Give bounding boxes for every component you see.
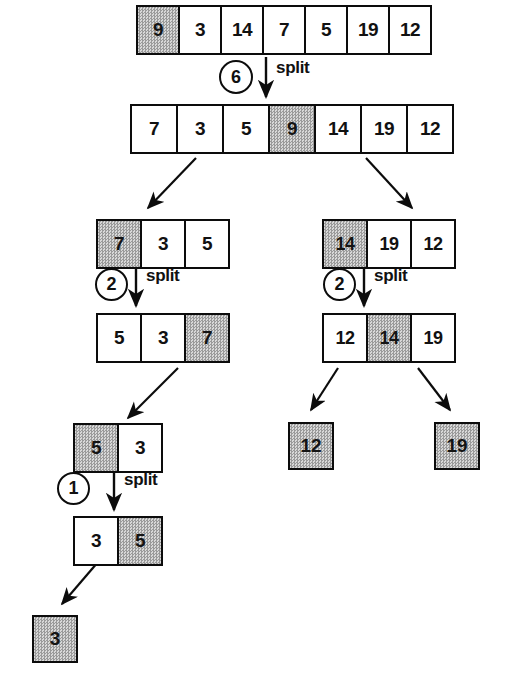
array-cell[interactable]: 7 — [184, 313, 230, 363]
array-cell[interactable]: 3 — [117, 423, 163, 473]
split-label-left: split — [146, 266, 179, 286]
array-cell[interactable]: 9 — [268, 104, 316, 154]
leaf-node-19[interactable]: 19 — [434, 422, 480, 470]
comparison-count-left: 2 — [95, 268, 128, 301]
arrow-right-to-leaf19 — [418, 368, 450, 410]
split-label-right: split — [374, 266, 407, 286]
array-cell[interactable]: 5 — [222, 104, 270, 154]
array-cell[interactable]: 3 — [140, 313, 186, 363]
array-cell[interactable]: 14 — [220, 5, 264, 55]
array-cell[interactable]: 12 — [388, 5, 432, 55]
array-cell[interactable]: 12 — [406, 104, 454, 154]
arrow-root-to-left — [148, 158, 196, 208]
array-cell[interactable]: 5 — [304, 5, 348, 55]
array-cell[interactable]: 19 — [410, 313, 456, 363]
array-cell[interactable]: 3 — [73, 516, 119, 566]
array-cell[interactable]: 12 — [322, 313, 368, 363]
array-cell[interactable]: 7 — [130, 104, 178, 154]
array-cell[interactable]: 7 — [262, 5, 306, 55]
split-label-root: split — [276, 58, 309, 78]
root-array-before-split: 9 3 14 7 5 19 12 — [136, 5, 432, 55]
right-subarray-after-split: 12 14 19 — [322, 313, 456, 363]
quicksort-split-diagram: 9 3 14 7 5 19 12 6 split 7 3 5 9 14 19 1… — [0, 0, 506, 686]
array-cell[interactable]: 3 — [178, 5, 222, 55]
array-cell[interactable]: 5 — [96, 313, 142, 363]
left-subarray-before-split: 7 3 5 — [96, 219, 230, 269]
root-array-after-split: 7 3 5 9 14 19 12 — [130, 104, 454, 154]
left-subarray-after-split: 5 3 7 — [96, 313, 230, 363]
arrow-leftleft-to-leaf3 — [62, 562, 98, 604]
right-subarray-before-split: 14 19 12 — [322, 219, 456, 269]
array-cell[interactable]: 9 — [136, 5, 180, 55]
array-cell[interactable]: 7 — [96, 219, 142, 269]
arrow-left-to-leftleft — [128, 368, 178, 418]
array-cell[interactable]: 5 — [73, 423, 119, 473]
leaf-node-3[interactable]: 3 — [32, 615, 78, 663]
leaf-node-12[interactable]: 12 — [288, 422, 334, 470]
array-cell[interactable]: 12 — [410, 219, 456, 269]
left-left-subarray-before-split: 5 3 — [73, 423, 163, 473]
array-cell[interactable]: 5 — [184, 219, 230, 269]
array-cell[interactable]: 3 — [176, 104, 224, 154]
array-cell[interactable]: 14 — [366, 313, 412, 363]
array-cell[interactable]: 5 — [117, 516, 163, 566]
left-left-subarray-after-split: 3 5 — [73, 516, 163, 566]
comparison-count-root: 6 — [219, 60, 253, 94]
arrow-right-to-leaf12 — [311, 368, 338, 410]
array-cell[interactable]: 14 — [322, 219, 368, 269]
arrow-root-to-right — [366, 158, 412, 208]
array-cell[interactable]: 14 — [314, 104, 362, 154]
split-label-leftleft: split — [124, 470, 157, 490]
array-cell[interactable]: 3 — [140, 219, 186, 269]
array-cell[interactable]: 19 — [346, 5, 390, 55]
comparison-count-right: 2 — [323, 268, 356, 301]
array-cell[interactable]: 19 — [366, 219, 412, 269]
comparison-count-leftleft: 1 — [57, 472, 90, 505]
array-cell[interactable]: 19 — [360, 104, 408, 154]
